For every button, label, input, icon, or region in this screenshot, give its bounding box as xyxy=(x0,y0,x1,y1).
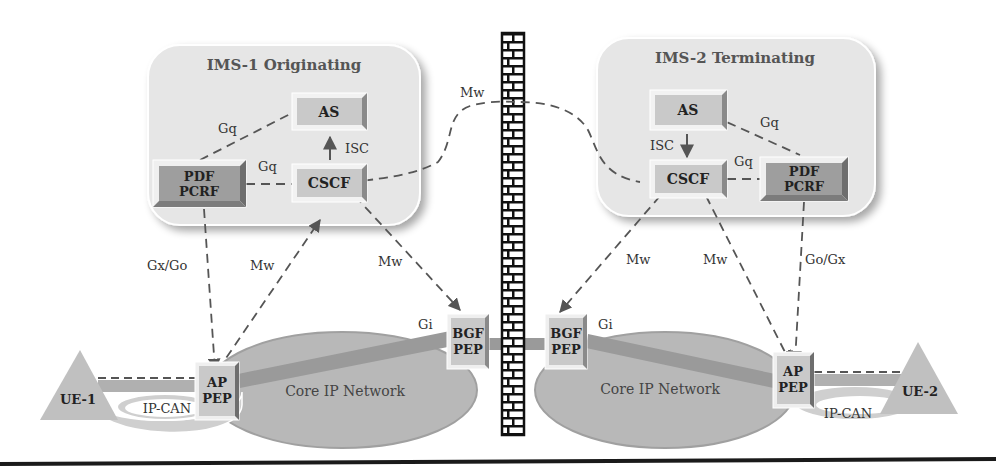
ap2-label: AP xyxy=(782,364,803,379)
firewall xyxy=(502,33,524,435)
bgf-pep2-node[interactable]: BGF PEP xyxy=(545,314,587,369)
as2-label: AS xyxy=(677,102,699,118)
pep-bgf1-label: PEP xyxy=(453,342,483,357)
mw-label-bgf1: Mw xyxy=(378,254,402,269)
gi-label-2: Gi xyxy=(598,317,613,332)
pep-ap1-label: PEP xyxy=(202,391,232,406)
cscf1-node[interactable]: CSCF xyxy=(292,164,367,202)
gq-label-4: Gq xyxy=(734,154,753,169)
pdf2-label: PDF xyxy=(789,164,820,179)
core-network-1: Core IP Network xyxy=(207,330,477,448)
as2-node[interactable]: AS xyxy=(650,90,727,130)
ims2-title: IMS-2 Terminating xyxy=(655,49,816,67)
gi-label-1: Gi xyxy=(418,317,433,332)
pcrf1-label-text: PCRF xyxy=(179,184,220,199)
ap-pep1-node[interactable]: AP PEP xyxy=(195,362,239,420)
mw-label-inter: Mw xyxy=(460,85,484,100)
pcrf2-label: PCRF xyxy=(784,179,825,194)
gq-label-1: Gq xyxy=(218,121,237,136)
isc-label-1: ISC xyxy=(345,141,369,156)
ue1-label: UE-1 xyxy=(60,392,96,407)
core-network-2-label: Core IP Network xyxy=(600,381,720,397)
ue2-label: UE-2 xyxy=(902,384,938,399)
as1-label: AS xyxy=(318,104,340,120)
ap-pep2-node[interactable]: AP PEP xyxy=(773,352,814,408)
ue2-access: UE-2 IP-CAN xyxy=(795,342,958,421)
ap1-label: AP xyxy=(206,375,227,390)
ipcan2-label: IP-CAN xyxy=(824,406,872,421)
core-network-1-label: Core IP Network xyxy=(285,383,405,399)
gq-label-3: Gq xyxy=(760,115,779,130)
as1-node[interactable]: AS xyxy=(292,93,367,130)
gq-label-2: Gq xyxy=(258,159,277,174)
cscf1-label: CSCF xyxy=(308,175,350,191)
bgf1-label: BGF xyxy=(452,326,484,341)
pdf-pcrf2-node[interactable]: PDF PCRF xyxy=(760,157,848,201)
ims1-title: IMS-1 Originating xyxy=(207,56,362,74)
mw-label-ap2: Mw xyxy=(703,252,727,267)
ims-qos-diagram: IMS-1 Originating IMS-2 Terminating Core… xyxy=(0,0,996,473)
gxgo-label-1: Gx/Go xyxy=(147,258,187,273)
pep-bgf2-label: PEP xyxy=(551,342,581,357)
ipcan1-label: IP-CAN xyxy=(143,401,191,416)
bgf-pep1-node[interactable]: BGF PEP xyxy=(447,314,489,369)
pep-ap2-label: PEP xyxy=(778,380,808,395)
pdf1-label: PDF xyxy=(184,169,215,184)
isc-label-2: ISC xyxy=(650,138,674,153)
mw-label-ap1: Mw xyxy=(250,258,274,273)
gogx-label-2: Go/Gx xyxy=(805,252,846,267)
bottom-rule xyxy=(0,457,996,466)
cscf2-node[interactable]: CSCF xyxy=(650,160,727,198)
bgf2-label: BGF xyxy=(550,326,582,341)
cscf2-label: CSCF xyxy=(667,171,709,187)
mw-label-bgf2: Mw xyxy=(626,252,650,267)
